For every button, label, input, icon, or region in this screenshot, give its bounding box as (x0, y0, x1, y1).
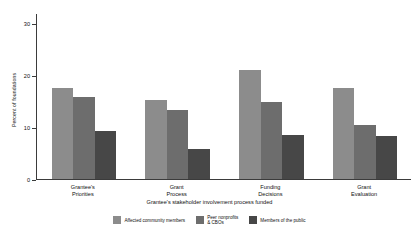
y-tick-label: 30 (24, 21, 30, 27)
x-tick-label: Grant Process (137, 184, 217, 198)
y-axis-title: Percent of foundations (7, 52, 21, 148)
legend-item[interactable]: Affected community members (113, 216, 185, 224)
legend-swatch (113, 216, 121, 224)
legend-label: Affected community members (124, 218, 185, 223)
legend-item[interactable]: Members of the public (249, 216, 305, 224)
x-tick-label: Funding Decisions (230, 184, 310, 198)
bar (261, 102, 283, 179)
bar-groups (37, 14, 411, 179)
y-tick-mark (32, 128, 36, 129)
y-tick-mark (32, 76, 36, 77)
bar-group (145, 14, 210, 179)
bar-group (333, 14, 398, 179)
bar (95, 131, 117, 179)
bar-group (239, 14, 304, 179)
bar (52, 88, 74, 179)
legend-swatch (249, 216, 257, 224)
x-tick-label: Grantee's Priorities (43, 184, 123, 198)
bar (376, 136, 398, 179)
chart-legend: Affected community membersPeer nonprofit… (0, 215, 419, 225)
plot-area: 0102030 (36, 14, 411, 180)
legend-label: Members of the public (260, 218, 305, 223)
bar (354, 125, 376, 179)
y-tick-mark (32, 180, 36, 181)
x-axis-line (36, 179, 411, 180)
bar-chart-figure: Percent of foundations 0102030 Grantee's… (0, 0, 419, 240)
x-axis-title: Grantee's stakeholder involvement proces… (0, 199, 419, 205)
bar-group (52, 14, 117, 179)
legend-swatch (196, 216, 204, 224)
bar (167, 110, 189, 179)
y-tick-label: 10 (24, 125, 30, 131)
bar (282, 135, 304, 179)
bar (73, 97, 95, 179)
bar (333, 88, 355, 179)
bar (188, 149, 210, 179)
bar (145, 100, 167, 179)
y-tick-label: 20 (24, 73, 30, 79)
legend-label: Peer nonprofits & CBOs (207, 215, 238, 225)
x-tick-label: Grant Evaluation (324, 184, 404, 198)
legend-item[interactable]: Peer nonprofits & CBOs (196, 215, 238, 225)
y-tick-mark (32, 24, 36, 25)
y-tick-label: 0 (27, 177, 30, 183)
bar (239, 70, 261, 179)
